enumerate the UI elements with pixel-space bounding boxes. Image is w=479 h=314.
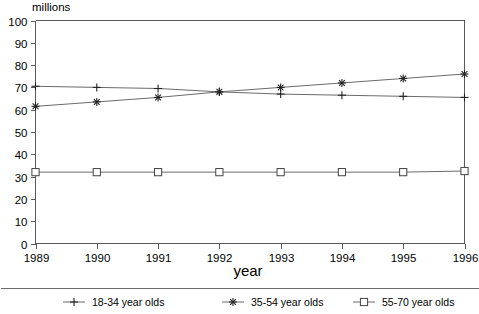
data-point-marker-square — [32, 169, 39, 176]
y-tick-label: 60 — [15, 105, 28, 117]
y-tick-label: 80 — [15, 60, 28, 72]
y-tick-label: 40 — [15, 149, 28, 161]
data-point-marker-square — [338, 169, 345, 176]
data-point-marker-star — [32, 102, 40, 110]
data-point-marker-square — [400, 169, 407, 176]
y-tick-label: 50 — [15, 127, 28, 139]
data-point-marker-plus — [70, 298, 78, 306]
data-point-marker-star — [277, 83, 285, 91]
y-tick-label: 10 — [15, 216, 28, 228]
chart-legend: 18-34 year olds35-54 year olds55-70 year… — [63, 296, 454, 308]
x-tick-label: 1995 — [391, 252, 417, 264]
data-point-marker-star — [154, 93, 162, 101]
y-axis-unit-label: millions — [32, 1, 71, 13]
x-tick-label: 1994 — [330, 252, 356, 264]
x-axis-title: year — [233, 262, 262, 279]
data-point-marker-plus — [461, 93, 469, 101]
legend-label: 35-54 year olds — [251, 296, 323, 308]
data-point-marker-star — [338, 79, 346, 87]
chart-container: millions 0102030405060708090100 19891990… — [0, 0, 479, 314]
data-point-marker-star — [399, 74, 407, 82]
data-point-marker-star — [461, 70, 469, 78]
data-point-marker-square — [360, 298, 367, 305]
series-3 — [32, 167, 468, 175]
y-tick-label: 0 — [21, 239, 27, 251]
data-point-marker-plus — [154, 85, 162, 93]
y-tick-label: 90 — [15, 38, 28, 50]
data-point-marker-star — [215, 88, 223, 96]
data-point-marker-square — [154, 169, 161, 176]
y-tick-label: 100 — [8, 16, 27, 28]
series-layer — [32, 70, 469, 176]
y-tick-label: 20 — [15, 194, 28, 206]
data-point-marker-plus — [338, 91, 346, 99]
y-tick-label: 30 — [15, 172, 28, 184]
data-point-marker-square — [461, 167, 468, 174]
data-point-marker-plus — [93, 83, 101, 91]
y-tick-label: 70 — [15, 82, 28, 94]
x-axis-ticks: 19891990199119921993199419951996 — [24, 244, 479, 264]
line-chart: millions 0102030405060708090100 19891990… — [0, 0, 479, 314]
data-point-marker-square — [216, 169, 223, 176]
x-tick-label: 1989 — [24, 252, 50, 264]
data-point-marker-plus — [399, 92, 407, 100]
data-point-marker-star — [229, 298, 237, 306]
legend-entry-2[interactable]: 35-54 year olds — [222, 296, 323, 308]
series-line — [36, 86, 465, 97]
data-point-marker-square — [93, 169, 100, 176]
y-axis-ticks: 0102030405060708090100 — [8, 16, 35, 251]
x-tick-label: 1992 — [207, 252, 233, 264]
legend-entry-3[interactable]: 55-70 year olds — [353, 296, 454, 308]
x-tick-label: 1996 — [453, 252, 479, 264]
legend-label: 18-34 year olds — [92, 296, 164, 308]
x-tick-label: 1993 — [269, 252, 295, 264]
data-point-marker-plus — [32, 82, 40, 90]
legend-entry-1[interactable]: 18-34 year olds — [63, 296, 164, 308]
data-point-marker-square — [277, 169, 284, 176]
x-tick-label: 1991 — [146, 252, 172, 264]
legend-label: 55-70 year olds — [382, 296, 454, 308]
data-point-marker-star — [93, 98, 101, 106]
x-tick-label: 1990 — [85, 252, 111, 264]
